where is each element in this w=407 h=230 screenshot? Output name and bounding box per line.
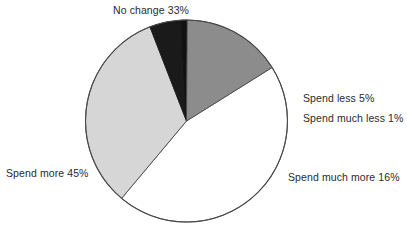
slice-label-no-change: No change 33% (113, 4, 189, 16)
slice-label-spend-much-less: Spend much less 1% (303, 112, 403, 124)
pie-chart: No change 33% Spend less 5% Spend much l… (0, 0, 407, 230)
pie-slice-group (86, 20, 288, 222)
slice-label-spend-less: Spend less 5% (303, 92, 374, 104)
slice-label-spend-more: Spend more 45% (6, 167, 89, 179)
slice-label-spend-much-more: Spend much more 16% (288, 171, 400, 183)
